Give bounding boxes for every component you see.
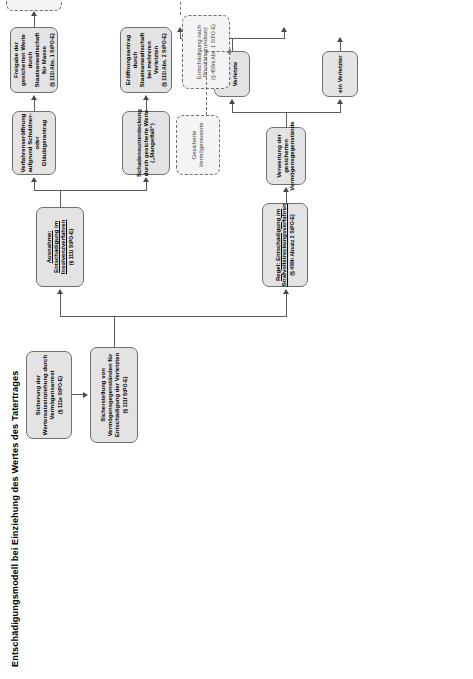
connector-verwertung-split: [286, 113, 287, 127]
connector-to-ausnahme: [60, 293, 61, 317]
connector-to-ein-verletzter: [340, 103, 341, 113]
node-regel-strafvollstreckung-ref: (§ 459h Absatz 2 StPO-E): [289, 203, 295, 286]
arrowhead-right: [143, 95, 149, 100]
connector-ausnahme-split: [60, 191, 61, 207]
connector-sicherstellung-trunk: [114, 317, 115, 347]
node-regel-strafvollstreckung: Regel: Entschädigung im Strafvollstrecku…: [262, 203, 308, 287]
node-vermoegensarrest-label: Sicherung der Wertersatzeinziehung durch…: [35, 354, 56, 436]
node-verwertung: Verwertung der gesicherten Vermögensgege…: [266, 127, 306, 185]
arrowhead-up-dashed: [226, 49, 231, 55]
arrowhead-right: [283, 289, 289, 294]
node-eroeffnungsantrag: Eröffnungsantrag durch Staatsanwaltschaf…: [120, 27, 172, 93]
connector-dashed-gesicherte-to-prioritaet: [206, 52, 207, 115]
connector-verwertung-split-v: [232, 112, 340, 113]
node-vermoegensarrest-ref: (§ 111e StPO-E): [57, 354, 63, 436]
node-entschaedigung-prioritaet-ref: (§ 459m Abs. 1 StPO-E): [210, 18, 216, 86]
diagram-canvas: Entschädigungsmodell bei Einziehung des …: [0, 0, 473, 679]
arrowhead-right: [229, 99, 235, 104]
connector-sicherstellung-down: [114, 316, 286, 317]
node-entschaedigung-prioritaet-label: Entschädigung nach Prioritätsgrundsatz: [196, 18, 210, 86]
node-ueberschuss: Überschuss nach Schlussverteilung (nach …: [6, 0, 62, 11]
connector-mehrere-to-schadensdeckung-branch: [180, 31, 181, 39]
node-schadensunterdeckung-oben: Schadensunterdeckung durch gesicherte We…: [122, 111, 170, 175]
connector-ein-verletzter-to-schadensdeckung: [340, 41, 341, 51]
node-eroeffnungsantrag-ref: (§ 111i Abs. 2 StPO-E): [161, 30, 167, 90]
connector-freigabe-to-entschaedigung: [34, 15, 35, 27]
connector-sicherstellung-up: [60, 316, 115, 317]
node-verfahrenseroeffnung: Verfahrenseröffnung aufgrund Schuldner- …: [12, 111, 56, 175]
connector-mehrere-to-schadensunterdeckung: [284, 31, 285, 39]
node-sicherstellung-ref: (§ 111f StPO-E): [122, 350, 128, 440]
arrowhead-right: [337, 37, 343, 42]
arrowhead-right: [337, 99, 343, 104]
connector-to-mehrere-verletzte: [232, 103, 233, 113]
node-gesicherte-vermoegenswerte: Gesicherte Vermögenswerte: [176, 115, 220, 175]
node-freigabe-label: Freigabe der gesicherten Werte durch Sta…: [13, 30, 48, 90]
node-schadensunterdeckung-oben-label: Schadensunterdeckung durch gesicherte We…: [136, 109, 157, 177]
arrowhead-right: [281, 27, 287, 32]
arrowhead-right: [31, 177, 37, 182]
node-vermoegensarrest: Sicherung der Wertersatzeinziehung durch…: [26, 351, 72, 439]
node-ueberschuss-ref: (nach vollständiger Befriedigung aller I…: [32, 0, 50, 8]
node-ausnahme-insolvenz-ref: (§ 111i StPO-E): [68, 210, 74, 284]
node-ueberschuss-label: Überschuss nach Schlussverteilung: [18, 0, 32, 8]
connector-to-regel: [286, 293, 287, 317]
connector-regel-to-verwertung: [286, 191, 287, 203]
arrowhead-right: [31, 11, 37, 16]
connector-ausnahme-split-v: [34, 190, 146, 191]
arrowhead-right: [31, 95, 37, 100]
node-ein-verletzter: ein Verletzter: [322, 51, 358, 97]
node-regel-strafvollstreckung-label: Regel: Entschädigung im Strafvollstrecku…: [275, 203, 289, 286]
connector-dashed-ueberschuss-left: [180, 0, 181, 15]
connector-schadensunterdeckung-to-eroeffnungsantrag: [146, 99, 147, 111]
node-sicherstellung-label: Sicherstellung von Vermögensgegenständen…: [100, 350, 121, 440]
node-sicherstellung: Sicherstellung von Vermögensgegenständen…: [90, 347, 138, 443]
node-ausnahme-insolvenz-label: Ausnahme: Entschädigung im Insolvenzverf…: [46, 210, 67, 284]
connector-to-verfahrenseroeffnung: [34, 181, 35, 191]
node-ausnahme-insolvenz: Ausnahme: Entschädigung im Insolvenzverf…: [36, 207, 84, 287]
arrowhead-right: [143, 177, 149, 182]
node-eroeffnungsantrag-label: Eröffnungsantrag durch Staatsanwaltschaf…: [125, 30, 160, 90]
arrowhead-right: [57, 289, 63, 294]
node-freigabe-ref: (§ 111i Abs. 1 StPO-E): [49, 30, 55, 90]
arrowhead-down: [83, 392, 88, 398]
connector-verfahrenseroeffnung-to-freigabe: [34, 99, 35, 111]
page-title: Entschädigungsmodell bei Einziehung des …: [10, 371, 20, 667]
connector-to-schadensunterdeckung-oben: [146, 181, 147, 191]
node-gesicherte-vermoegenswerte-label: Gesicherte Vermögenswerte: [191, 118, 205, 172]
node-verfahrenseroeffnung-label: Verfahrenseröffnung aufgrund Schuldner- …: [20, 113, 48, 172]
node-verwertung-label: Verwertung der gesicherten Vermögensgege…: [276, 121, 297, 190]
connector-mehrere-split: [232, 39, 233, 51]
node-freigabe: Freigabe der gesicherten Werte durch Sta…: [10, 27, 58, 93]
node-ein-verletzter-label: ein Verletzter: [337, 55, 344, 92]
